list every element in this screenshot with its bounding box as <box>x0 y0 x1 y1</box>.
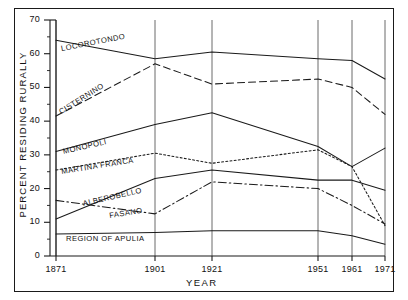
x-tick-label: 1921 <box>192 264 232 274</box>
y-axis-ticks <box>44 20 50 256</box>
series-label: REGION OF APULIA <box>66 234 145 243</box>
series-line-locorotondo <box>56 40 385 79</box>
y-tick-label: 0 <box>18 250 40 260</box>
series-line-cisternino <box>56 64 385 116</box>
x-axis-title: YEAR <box>186 277 217 288</box>
x-tick-label: 1971 <box>365 264 405 274</box>
x-tick-label: 1901 <box>135 264 175 274</box>
y-axis-title: PERCENT RESIDING RURALLY <box>17 58 28 218</box>
x-axis-ticks <box>56 256 385 261</box>
x-tick-label: 1871 <box>36 264 76 274</box>
y-tick-label: 70 <box>18 14 40 24</box>
chart-figure: 010203040506070 187119011921195119611971… <box>0 0 408 300</box>
y-tick-label: 10 <box>18 216 40 226</box>
